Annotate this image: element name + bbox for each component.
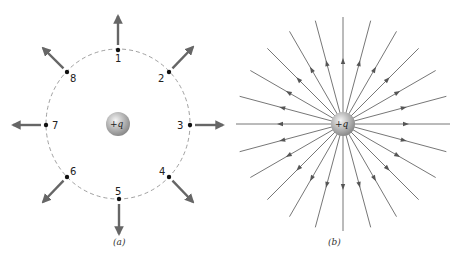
field-line — [352, 71, 436, 120]
point-label-1: 1 — [115, 53, 121, 64]
arrowhead-icon — [394, 91, 400, 96]
field-line — [348, 133, 397, 217]
arrowhead-icon — [371, 67, 376, 73]
charge-label-b: +q — [335, 119, 349, 129]
arrowhead-icon — [286, 91, 292, 96]
field-vector-arrow-4 — [172, 181, 193, 202]
field-vector-arrow-8 — [43, 48, 63, 68]
arrowhead-icon — [356, 181, 360, 187]
test-point-4 — [167, 175, 171, 179]
arrowhead-icon — [403, 122, 409, 126]
point-label-4: 4 — [159, 166, 165, 177]
arrowhead-icon — [325, 60, 329, 66]
field-line — [250, 71, 334, 120]
arrowhead-icon — [341, 184, 345, 190]
arrowhead-icon — [279, 106, 285, 110]
test-point-6 — [65, 175, 69, 179]
arrowhead-icon — [341, 58, 345, 64]
arrowhead-icon — [371, 175, 376, 181]
figure-a-field-vectors: 12345678 +q (a) — [13, 16, 223, 247]
arrowhead-icon — [286, 152, 292, 157]
arrowhead-icon — [277, 122, 283, 126]
test-point-5 — [117, 197, 121, 201]
field-line — [352, 129, 436, 178]
test-point-2 — [167, 70, 171, 74]
caption-a: (a) — [113, 237, 126, 247]
test-point-3 — [188, 123, 192, 127]
charge-label-a: +q — [110, 119, 124, 129]
arrowhead-icon — [310, 67, 315, 73]
point-label-3: 3 — [177, 120, 183, 131]
field-vector-arrow-6 — [43, 181, 64, 202]
arrowhead-icon — [394, 152, 400, 157]
arrowhead-icon — [356, 60, 360, 66]
diagram-canvas: 12345678 +q (a) +q (b) — [0, 0, 457, 259]
field-line — [290, 133, 339, 217]
arrowhead-icon — [325, 181, 329, 187]
point-label-8: 8 — [70, 73, 76, 84]
arrowhead-icon — [400, 137, 406, 141]
field-line — [290, 31, 339, 115]
figure-b-field-lines: +q (b) — [236, 17, 450, 247]
field-vector-arrow-2 — [172, 47, 193, 68]
test-point-1 — [116, 48, 120, 52]
arrowhead-icon — [400, 106, 406, 110]
point-label-5: 5 — [115, 186, 121, 197]
point-label-7: 7 — [52, 120, 58, 131]
point-label-6: 6 — [70, 166, 76, 177]
test-point-7 — [44, 123, 48, 127]
arrowhead-icon — [279, 137, 285, 141]
field-line — [348, 31, 397, 115]
point-label-2: 2 — [158, 73, 164, 84]
test-point-8 — [65, 70, 69, 74]
field-line — [250, 129, 334, 178]
caption-b: (b) — [328, 237, 341, 247]
arrowhead-icon — [310, 175, 315, 181]
